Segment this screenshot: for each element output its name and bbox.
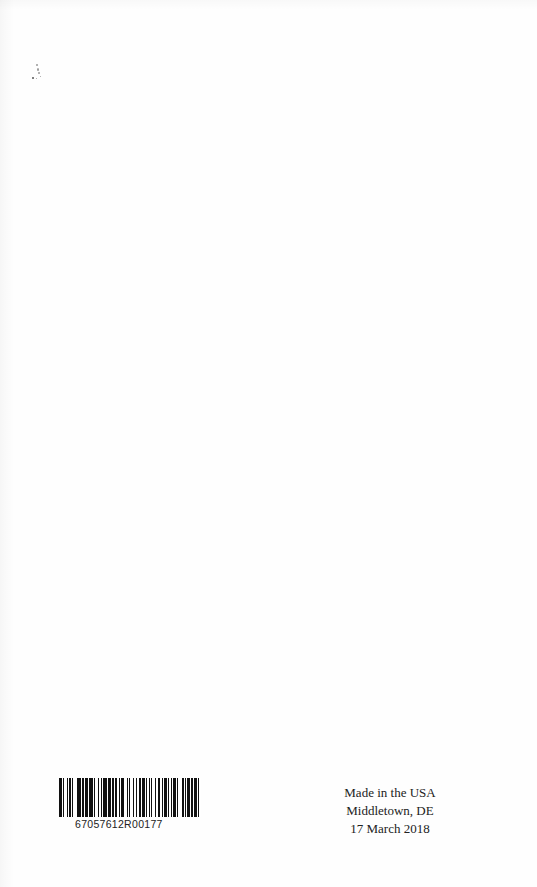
back-page: 67057612R00177 Made in the USA Middletow… (0, 0, 537, 887)
imprint-date: 17 March 2018 (320, 820, 460, 838)
ink-speck-mark (30, 62, 44, 84)
barcode-space (199, 778, 200, 817)
barcode-image (59, 778, 201, 817)
barcode-block: 67057612R00177 (59, 778, 201, 830)
imprint-location: Middletown, DE (320, 802, 460, 820)
printer-imprint: Made in the USA Middletown, DE 17 March … (320, 784, 460, 838)
imprint-made-in: Made in the USA (320, 784, 460, 802)
barcode-number: 67057612R00177 (59, 818, 201, 830)
